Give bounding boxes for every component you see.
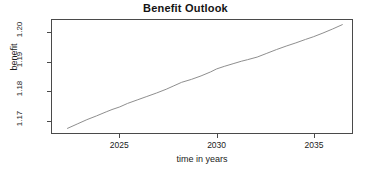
plot-area — [51, 19, 353, 134]
chart-figure: Benefit Outlook benefit 1.171.181.191.20… — [0, 0, 371, 174]
chart-title: Benefit Outlook — [0, 2, 371, 14]
y-tick-label-text: 1.17 — [15, 110, 24, 126]
y-tick-label: 1.19 — [0, 55, 40, 64]
x-tick-label: 2025 — [97, 140, 141, 150]
x-tick-mark — [119, 134, 120, 138]
y-tick-label: 1.20 — [0, 25, 40, 34]
y-tick-label-text: 1.19 — [15, 52, 24, 68]
x-tick-label: 2030 — [195, 140, 239, 150]
benefit-line — [67, 25, 342, 129]
x-tick-mark — [217, 134, 218, 138]
data-line-svg — [52, 20, 352, 133]
y-tick-label-text: 1.20 — [15, 22, 24, 38]
x-tick-mark — [314, 134, 315, 138]
x-tick-label: 2035 — [292, 140, 336, 150]
y-tick-label-text: 1.18 — [15, 81, 24, 97]
x-axis-label: time in years — [51, 154, 353, 164]
y-tick-label: 1.18 — [0, 84, 40, 93]
y-tick-label: 1.17 — [0, 114, 40, 123]
